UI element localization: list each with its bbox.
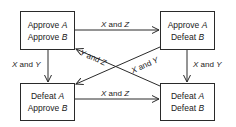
- variable: A: [198, 91, 204, 101]
- variable: A: [58, 91, 64, 101]
- conjunction: and: [109, 89, 122, 98]
- state-line: Approve: [168, 20, 200, 30]
- label-tr-to-br: X and Y: [193, 60, 222, 69]
- variable: X: [193, 60, 198, 69]
- label-tl-to-bl: X and Y: [12, 60, 41, 69]
- state-line: Approve: [28, 20, 60, 30]
- state-defeat-a-defeat-b: Defeat A Defeat B: [160, 83, 215, 121]
- variable: X: [101, 20, 106, 29]
- variable: Y: [216, 60, 221, 69]
- variable: X: [101, 89, 106, 98]
- variable: B: [198, 32, 204, 42]
- label-bl-to-br: X and Z: [101, 89, 129, 98]
- variable: B: [62, 103, 68, 113]
- variable: X: [12, 60, 17, 69]
- state-line: Defeat: [31, 91, 56, 101]
- variable: Z: [124, 89, 129, 98]
- voting-state-diagram: Approve A Approve B Approve A Defeat B D…: [0, 0, 236, 127]
- label-tl-to-tr: X and Z: [101, 20, 129, 29]
- state-line: Approve: [28, 103, 60, 113]
- variable: B: [198, 103, 204, 113]
- variable: A: [202, 20, 208, 30]
- conjunction: and: [109, 20, 122, 29]
- conjunction: and: [20, 60, 33, 69]
- state-line: Defeat: [171, 103, 196, 113]
- variable: Z: [124, 20, 129, 29]
- variable: A: [62, 20, 68, 30]
- variable: Y: [35, 60, 40, 69]
- state-approve-a-defeat-b: Approve A Defeat B: [160, 11, 215, 50]
- conjunction: and: [201, 60, 214, 69]
- state-defeat-a-approve-b: Defeat A Approve B: [20, 83, 75, 121]
- state-line: Defeat: [171, 32, 196, 42]
- state-approve-a-approve-b: Approve A Approve B: [20, 11, 75, 50]
- state-line: Defeat: [171, 91, 196, 101]
- state-line: Approve: [28, 32, 60, 42]
- variable: B: [62, 32, 68, 42]
